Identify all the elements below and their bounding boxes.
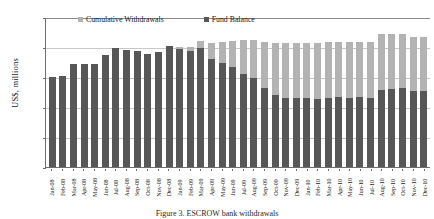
- legend-swatch-icon-fund-balance: [204, 17, 209, 22]
- bar-stack: [102, 55, 109, 168]
- x-tick: Apr-08: [78, 169, 89, 203]
- x-tick-mark: [222, 169, 223, 171]
- bar-segment-fund-balance: [282, 98, 289, 167]
- x-tick-label: Sep-09: [261, 179, 268, 196]
- bar-column: [89, 18, 100, 167]
- bar-segment-cumulative-withdrawals: [240, 40, 247, 74]
- x-tick: Apr-09: [206, 169, 217, 203]
- bar-column: [111, 18, 122, 167]
- x-tick-mark: [413, 169, 414, 171]
- x-tick: Dec-10: [418, 169, 429, 203]
- bar-segment-cumulative-withdrawals: [208, 43, 215, 59]
- x-tick-label: Aug-08: [122, 178, 129, 196]
- x-tick-mark: [211, 169, 212, 171]
- x-tick: Feb-10: [312, 169, 323, 203]
- x-tick-mark: [328, 169, 329, 171]
- bar-segment-cumulative-withdrawals: [410, 37, 417, 91]
- x-tick-mark: [73, 169, 74, 171]
- bar-segment-fund-balance: [399, 88, 406, 167]
- bar-segment-cumulative-withdrawals: [229, 41, 236, 67]
- x-tick-label: Nov-10: [410, 178, 417, 196]
- bar-series-group: [46, 18, 430, 167]
- bar-stack: [49, 77, 56, 167]
- legend-label-cumulative-withdrawals: Cumulative Withdrawals: [86, 15, 164, 24]
- x-tick-mark: [349, 169, 350, 171]
- x-tick-label: Oct-09: [271, 179, 278, 196]
- bar-segment-cumulative-withdrawals: [261, 42, 268, 88]
- x-tick-mark: [360, 169, 361, 171]
- bar-segment-fund-balance: [303, 98, 310, 167]
- x-tick: Sep-09: [259, 169, 270, 203]
- x-tick-mark: [275, 169, 276, 171]
- x-tick-mark: [51, 169, 52, 171]
- x-tick: Nov-09: [280, 169, 291, 203]
- bar-segment-fund-balance: [388, 89, 395, 167]
- x-tick-label: Nov-09: [282, 178, 289, 196]
- x-tick: Dec-08: [163, 169, 174, 203]
- x-tick: Oct-08: [142, 169, 153, 203]
- bar-column: [174, 18, 185, 167]
- bar-segment-cumulative-withdrawals: [378, 34, 385, 90]
- x-tick-mark: [200, 169, 201, 171]
- bar-column: [79, 18, 90, 167]
- x-tick-label: Dec-08: [165, 179, 172, 197]
- x-tick: Oct-09: [269, 169, 280, 203]
- bar-column: [249, 18, 260, 167]
- x-tick-label: Jun-08: [101, 179, 108, 195]
- bar-column: [344, 18, 355, 167]
- x-tick-mark: [147, 169, 148, 171]
- x-tick-label: Jul-08: [112, 180, 119, 195]
- bar-stack: [229, 41, 236, 167]
- bar-column: [270, 18, 281, 167]
- bar-column: [227, 18, 238, 167]
- bar-column: [185, 18, 196, 167]
- bar-stack: [112, 48, 119, 167]
- legend-item-cumulative-withdrawals: Cumulative Withdrawals: [78, 15, 164, 24]
- x-tick: Jan-10: [301, 169, 312, 203]
- bar-column: [333, 18, 344, 167]
- bar-stack: [197, 41, 204, 167]
- bar-segment-fund-balance: [155, 52, 162, 167]
- bar-segment-cumulative-withdrawals: [325, 42, 332, 98]
- x-tick: May-10: [344, 169, 355, 203]
- x-tick-mark: [232, 169, 233, 171]
- x-tick-label: May-10: [346, 178, 353, 197]
- bar-segment-fund-balance: [314, 99, 321, 167]
- x-tick-label: Nov-08: [154, 178, 161, 196]
- x-tick-mark: [115, 169, 116, 171]
- x-tick-mark: [190, 169, 191, 171]
- bar-segment-cumulative-withdrawals: [293, 43, 300, 99]
- x-axis-labels: Jan-08Feb-08Mar-08Apr-08May-08Jun-08Jul-…: [45, 169, 430, 203]
- bar-segment-cumulative-withdrawals: [399, 34, 406, 89]
- x-tick-mark: [381, 169, 382, 171]
- bar-column: [376, 18, 387, 167]
- bar-column: [408, 18, 419, 167]
- bar-stack: [346, 42, 353, 167]
- x-tick-mark: [243, 169, 244, 171]
- bar-column: [153, 18, 164, 167]
- bar-segment-cumulative-withdrawals: [420, 37, 427, 91]
- bar-stack: [325, 42, 332, 167]
- bar-stack: [208, 43, 215, 167]
- bar-column: [196, 18, 207, 167]
- x-tick: Oct-10: [397, 169, 408, 203]
- bar-column: [217, 18, 228, 167]
- x-tick-mark: [264, 169, 265, 171]
- plot-area: 05,00010,00015,00020,00025,000: [45, 18, 430, 168]
- x-tick: Feb-09: [184, 169, 195, 203]
- bar-segment-fund-balance: [187, 51, 194, 167]
- figure-caption: Figure 3. ESCROW bank withdrawals: [0, 209, 434, 218]
- bar-stack: [59, 76, 66, 168]
- x-tick-label: Jul-10: [367, 180, 374, 195]
- x-tick: Dec-09: [291, 169, 302, 203]
- bar-stack: [335, 42, 342, 167]
- x-tick-mark: [105, 169, 106, 171]
- x-tick-label: Jul-09: [239, 180, 246, 195]
- y-axis-title: US$, millions: [10, 40, 20, 126]
- bar-segment-fund-balance: [176, 49, 183, 167]
- bar-column: [302, 18, 313, 167]
- bar-column: [397, 18, 408, 167]
- bar-segment-fund-balance: [81, 64, 88, 167]
- bar-segment-cumulative-withdrawals: [197, 41, 204, 48]
- bar-stack: [388, 34, 395, 167]
